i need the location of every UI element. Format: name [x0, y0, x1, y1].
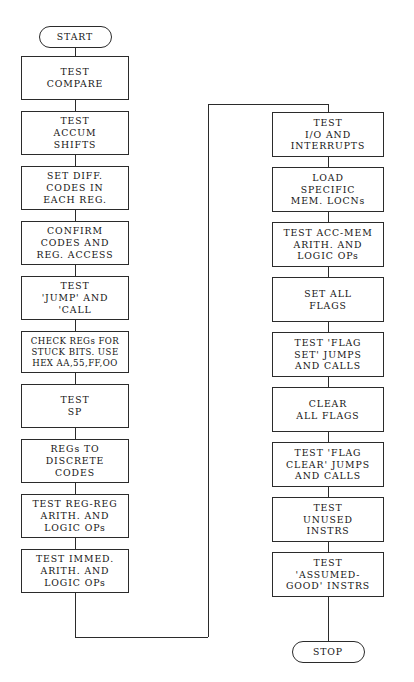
terminator-node-stop: STOP	[292, 641, 365, 663]
process-node-n06: CHECK REGs FORSTUCK BITS. USEHEX AA,55,F…	[21, 331, 129, 373]
node-text-line: EACH REG.	[43, 194, 107, 206]
node-text-line: ARITH. AND	[294, 239, 363, 251]
node-text-line: SET' JUMPS	[294, 349, 362, 361]
node-text-line: GOOD' INSTRS	[286, 580, 370, 592]
connector-start-to-n01	[75, 48, 76, 56]
connector-n17-to-n18	[328, 487, 329, 497]
node-text-line: TEST REG-REG	[32, 498, 117, 510]
process-node-n02: TESTACCUMSHIFTS	[21, 111, 129, 155]
node-text-line: LOGIC OPs	[297, 250, 358, 262]
connector-n16-to-n17	[328, 432, 329, 442]
node-text-line: HEX AA,55,FF,OO	[32, 358, 118, 369]
node-text-line: MEM. LOCNs	[291, 195, 366, 207]
node-text-line: AND CALLS	[295, 470, 361, 482]
process-node-n03: SET DIFF.CODES INEACH REG.	[21, 166, 129, 210]
process-node-n08: REGs TODISCRETECODES	[21, 439, 129, 483]
connector-n15-to-n16	[328, 377, 329, 387]
process-node-n10: TEST IMMED.ARITH. ANDLOGIC OPs	[21, 549, 129, 593]
connector-top-run	[208, 104, 328, 105]
process-node-n11: TESTI/O ANDINTERRUPTS	[272, 112, 384, 157]
connector-n11-to-n12	[328, 157, 329, 167]
node-text-line: SHIFTS	[54, 139, 97, 151]
node-text-line: START	[57, 31, 93, 43]
node-text-line: REGs TO	[50, 443, 99, 455]
node-text-line: CODES IN	[46, 182, 103, 194]
node-text-line: STOP	[313, 646, 343, 658]
node-text-line: FLAGS	[309, 300, 347, 312]
node-text-line: CODES	[55, 467, 95, 479]
node-text-line: ALL FLAGS	[296, 410, 359, 422]
node-text-line: ACCUM	[54, 127, 97, 139]
process-node-n13: TEST ACC-MEMARITH. ANDLOGIC OPs	[272, 222, 384, 267]
connector-n14-to-n15	[328, 322, 329, 332]
process-node-n15: TEST 'FLAGSET' JUMPSAND CALLS	[272, 332, 384, 377]
node-text-line: CHECK REGs FOR	[31, 336, 120, 347]
node-text-line: TEST	[60, 115, 89, 127]
process-node-n05: TEST'JUMP' AND'CALL	[21, 276, 129, 320]
connector-n18-to-n19	[328, 542, 329, 552]
node-text-line: COMPARE	[47, 78, 103, 90]
connector-n03-to-n04	[75, 210, 76, 221]
node-text-line: 'CALL	[58, 304, 91, 316]
node-text-line: ARITH. AND	[41, 565, 110, 577]
node-text-line: LOGIC OPs	[44, 577, 105, 589]
node-text-line: ARITH. AND	[41, 510, 110, 522]
node-text-line: TEST IMMED.	[36, 553, 114, 565]
node-text-line: TEST 'FLAG	[295, 447, 362, 459]
node-text-line: REG. ACCESS	[37, 249, 114, 261]
process-node-n17: TEST 'FLAGCLEAR' JUMPSAND CALLS	[272, 442, 384, 487]
node-text-line: I/O AND	[305, 129, 351, 141]
process-node-n19: TEST'ASSUMED-GOOD' INSTRS	[272, 552, 384, 597]
connector-bus-to-n11	[328, 104, 329, 112]
node-text-line: CODES AND	[41, 237, 110, 249]
node-text-line: TEST	[313, 502, 342, 514]
process-node-n01: TESTCOMPARE	[21, 56, 129, 100]
node-text-line: CLEAR	[309, 398, 347, 410]
node-text-line: AND CALLS	[295, 360, 361, 372]
connector-n19-to-stop	[328, 597, 329, 641]
terminator-node-start: START	[39, 26, 112, 48]
node-text-line: LOGIC OPs	[44, 522, 105, 534]
connector-n05-to-n06	[75, 320, 76, 331]
connector-n12-to-n13	[328, 212, 329, 222]
connector-n09-to-n10	[75, 538, 76, 549]
connector-n10-down	[75, 593, 76, 637]
connector-n08-to-n09	[75, 483, 76, 494]
process-node-n04: CONFIRMCODES ANDREG. ACCESS	[21, 221, 129, 265]
process-node-n07: TESTSP	[21, 384, 129, 428]
process-node-n12: LOADSPECIFICMEM. LOCNs	[272, 167, 384, 212]
process-node-n14: SET ALLFLAGS	[272, 277, 384, 322]
node-text-line: CONFIRM	[47, 225, 103, 237]
node-text-line: 'ASSUMED-	[296, 569, 361, 581]
node-text-line: DISCRETE	[46, 455, 105, 467]
flowchart-canvas: STARTTESTCOMPARETESTACCUMSHIFTSSET DIFF.…	[0, 0, 414, 682]
node-text-line: SPECIFIC	[301, 184, 356, 196]
node-text-line: TEST	[60, 66, 89, 78]
connector-bottom-run	[75, 637, 208, 638]
connector-n04-to-n05	[75, 265, 76, 276]
node-text-line: LOAD	[312, 172, 344, 184]
node-text-line: TEST	[60, 394, 89, 406]
node-text-line: INSTRS	[306, 525, 349, 537]
node-text-line: SET ALL	[304, 288, 352, 300]
node-text-line: SP	[68, 406, 82, 418]
node-text-line: UNUSED	[303, 514, 353, 526]
node-text-line: TEST ACC-MEM	[283, 227, 372, 239]
node-text-line: TEST	[60, 280, 89, 292]
connector-n02-to-n03	[75, 155, 76, 166]
connector-n06-to-n07	[75, 373, 76, 384]
connector-column-bus	[208, 104, 209, 637]
connector-n13-to-n14	[328, 267, 329, 277]
connector-n07-to-n08	[75, 428, 76, 439]
process-node-n09: TEST REG-REGARITH. ANDLOGIC OPs	[21, 494, 129, 538]
node-text-line: TEST	[313, 557, 342, 569]
process-node-n18: TESTUNUSEDINSTRS	[272, 497, 384, 542]
node-text-line: SET DIFF.	[47, 170, 103, 182]
node-text-line: TEST 'FLAG	[295, 337, 362, 349]
node-text-line: 'JUMP' AND	[42, 292, 109, 304]
node-text-line: STUCK BITS. USE	[31, 347, 118, 358]
node-text-line: INTERRUPTS	[291, 140, 365, 152]
node-text-line: CLEAR' JUMPS	[286, 459, 370, 471]
process-node-n16: CLEARALL FLAGS	[272, 387, 384, 432]
connector-n01-to-n02	[75, 100, 76, 111]
